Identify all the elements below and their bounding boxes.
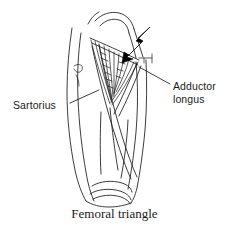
hip-pelvis-contour	[88, 12, 143, 58]
label-adductor-longus-line1: Adductor	[173, 80, 216, 92]
figure-caption: Femoral triangle	[0, 206, 229, 222]
label-sartorius: Sartorius	[13, 99, 56, 112]
label-adductor-longus-line2: longus	[173, 93, 205, 105]
adductor-longus-leader-line	[139, 67, 170, 84]
sartorius-muscle	[92, 45, 137, 179]
anatomical-figure: Sartorius Adductorlongus Femoral triangl…	[0, 0, 229, 230]
lateral-detail-mark	[139, 54, 152, 63]
anatomy-line-drawing	[0, 0, 229, 230]
sartorius-leader-line	[70, 90, 99, 103]
label-adductor-longus: Adductorlongus	[173, 80, 216, 105]
knee-patella	[86, 181, 132, 207]
